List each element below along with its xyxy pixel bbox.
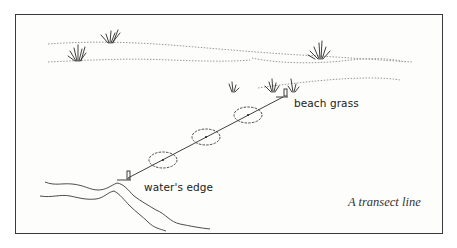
waters-edge-label: water's edge bbox=[144, 181, 213, 193]
transect-illustration bbox=[0, 0, 457, 248]
quadrat-center-dots bbox=[162, 114, 249, 161]
grass-icon bbox=[68, 45, 86, 61]
stake-end-icon bbox=[276, 89, 288, 97]
beach-grass-label: beach grass bbox=[294, 97, 359, 109]
dune-lines bbox=[48, 42, 412, 88]
grass-icon bbox=[229, 82, 239, 92]
figure-caption: A transect line bbox=[348, 195, 421, 210]
stake-start-icon bbox=[117, 171, 131, 180]
grass-icon bbox=[101, 30, 120, 43]
grass-icon bbox=[288, 79, 299, 92]
